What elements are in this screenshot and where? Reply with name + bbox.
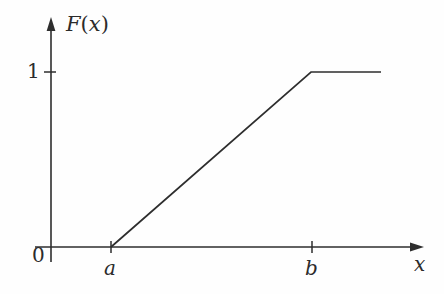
x-axis-label: x bbox=[414, 254, 425, 274]
y-axis-label-paren-open: ( bbox=[81, 12, 89, 36]
y-axis-label-variable: x bbox=[89, 12, 101, 36]
cdf-curve bbox=[111, 72, 381, 247]
y-tick-label-one: 1 bbox=[27, 61, 40, 81]
origin-label: 0 bbox=[32, 245, 45, 265]
y-axis-arrow-icon bbox=[47, 17, 56, 31]
y-axis-label-paren-close: ) bbox=[101, 12, 109, 36]
figure-canvas: F(x) 1 0 a b x bbox=[0, 0, 444, 294]
x-tick-label-b: b bbox=[305, 258, 318, 278]
y-axis-label: F(x) bbox=[66, 14, 109, 35]
y-axis-label-f: F bbox=[66, 12, 81, 36]
x-axis-arrow-icon bbox=[410, 243, 424, 252]
plot-svg bbox=[0, 0, 444, 294]
x-tick-label-a: a bbox=[104, 258, 116, 278]
